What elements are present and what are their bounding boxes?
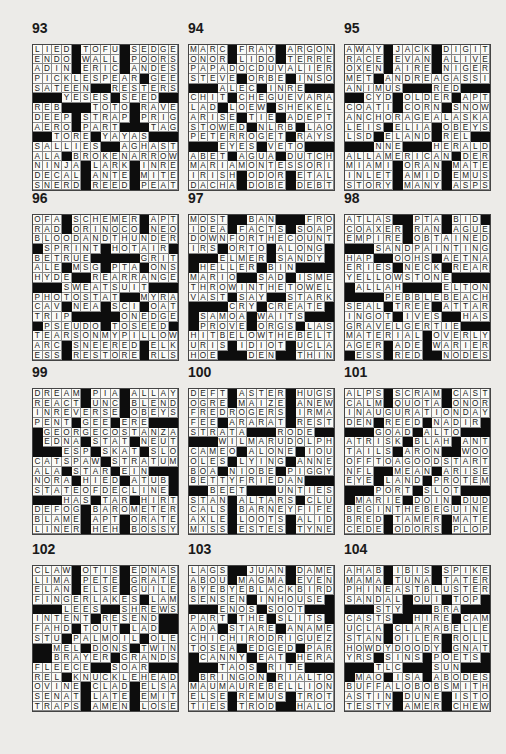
letter-cell: F [91,486,101,496]
letter-cell: O [218,322,228,332]
letter-cell: S [120,428,130,438]
letter-cell: R [374,341,384,351]
crossword-grid: LAGSJUANDAMEABOUMAGMAEVENBYEBYEBLACKBIRD… [188,565,335,712]
letter-cell: D [403,692,413,702]
letter-cell: R [130,74,140,84]
letter-cell: I [461,467,471,477]
letter-cell: V [228,322,238,332]
letter-cell: T [393,302,403,312]
letter-cell: P [374,486,384,496]
letter-cell: B [189,585,199,595]
black-square [374,476,384,486]
letter-cell: O [81,566,91,576]
letter-cell: E [481,161,491,171]
letter-cell: C [286,234,296,244]
letter-cell: T [199,428,209,438]
letter-cell: Y [345,273,355,283]
letter-cell: D [72,181,82,191]
letter-cell: T [189,283,199,293]
letter-cell: L [228,263,238,273]
letter-cell: R [276,673,286,683]
letter-cell: T [286,283,296,293]
crossword-grid: LIEDTOFUSEDGEENDOWALLPOORSADINERICANDESP… [32,44,179,191]
letter-cell: P [413,215,423,225]
letter-cell: M [101,634,111,644]
letter-cell: S [159,142,169,152]
letter-cell: A [91,171,101,181]
letter-cell: G [267,644,277,654]
letter-cell: H [461,702,471,712]
black-square [228,152,238,162]
letter-cell: S [442,457,452,467]
letter-cell: D [159,322,169,332]
letter-cell: I [461,682,471,692]
black-square [471,663,481,673]
letter-cell: O [33,215,43,225]
letter-cell: L [189,566,199,576]
letter-cell: W [461,447,471,457]
black-square [413,142,423,152]
letter-cell: O [111,351,121,361]
black-square [355,663,365,673]
letter-cell: L [33,45,43,55]
black-square [189,486,199,496]
black-square [130,171,140,181]
letter-cell: H [228,171,238,181]
black-square [481,663,491,673]
letter-cell: Y [120,132,130,142]
letter-cell: A [471,302,481,312]
letter-cell: C [364,93,374,103]
letter-cell: O [325,673,335,683]
letter-cell: E [325,457,335,467]
letter-cell: T [461,653,471,663]
letter-cell: D [481,234,491,244]
letter-cell: I [237,467,247,477]
letter-cell: M [413,171,423,181]
letter-cell: R [159,84,169,94]
letter-cell: A [199,566,209,576]
letter-cell: S [461,113,471,123]
letter-cell: A [62,171,72,181]
letter-cell: S [442,682,452,692]
letter-cell: E [111,614,121,624]
letter-cell: F [208,389,218,399]
black-square [228,389,238,399]
letter-cell: E [228,113,238,123]
letter-cell: E [247,692,257,702]
letter-cell: T [374,457,384,467]
letter-cell: S [33,142,43,152]
letter-cell: T [364,74,374,84]
black-square [120,624,130,634]
letter-cell: E [81,302,91,312]
letter-cell: C [52,341,62,351]
letter-cell: L [237,331,247,341]
letter-cell: M [111,215,121,225]
letter-cell: B [442,624,452,634]
letter-cell: L [149,389,159,399]
letter-cell: R [315,653,325,663]
letter-cell: W [159,605,169,615]
letter-cell: R [481,585,491,595]
letter-cell: R [130,653,140,663]
black-square [169,283,179,293]
letter-cell: I [461,505,471,515]
black-square [305,84,315,94]
black-square [355,93,365,103]
letter-cell: N [149,428,159,438]
letter-cell: E [267,389,277,399]
black-square [286,399,296,409]
letter-cell: N [208,595,218,605]
letter-cell: S [72,702,82,712]
letter-cell: A [247,418,257,428]
letter-cell: A [423,428,433,438]
letter-cell: N [257,161,267,171]
black-square [62,103,72,113]
letter-cell: E [149,605,159,615]
letter-cell: N [228,605,238,615]
letter-cell: U [296,341,306,351]
letter-cell: E [81,351,91,361]
black-square [247,486,257,496]
letter-cell: R [276,428,286,438]
letter-cell: M [345,576,355,586]
letter-cell: U [208,682,218,692]
